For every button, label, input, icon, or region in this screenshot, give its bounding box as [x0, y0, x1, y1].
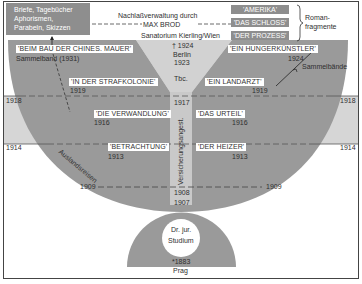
year-1914-left: 1914	[6, 144, 22, 152]
birth-city: Prag	[173, 267, 188, 275]
death-year: † 1924	[172, 42, 193, 50]
work-year: 1913	[232, 153, 248, 161]
kafka-life-work-diagram: Briefe, Tagebücher Aphorismen, Parabeln,…	[0, 0, 362, 284]
work-betrachtung: 'BETRACHTUNG'	[108, 143, 169, 151]
work-year: 1916	[94, 119, 110, 127]
study-label-2: Studium	[168, 237, 194, 245]
estate-name: MAX BROD	[143, 21, 180, 29]
year-1918-right: 1918	[340, 97, 356, 105]
fragments-label-1: Roman-	[305, 14, 330, 22]
box-line: Briefe, Tagebücher	[14, 5, 90, 14]
work-landarzt: 'EIN LANDARZT'	[205, 78, 264, 86]
fragments-label-2: fragmente	[305, 23, 337, 31]
work-strafkolonie: 'IN DER STRAFKOLONIE'	[69, 78, 158, 86]
insurance-label: Versicherungsangest.	[177, 118, 184, 185]
work-verwandlung: 'DIE VERWANDLUNG'	[94, 110, 171, 118]
year-1909-right: 1909	[266, 183, 282, 191]
year-1909-left: 1909	[80, 183, 96, 191]
work-das-urteil: 'DAS URTEIL'	[196, 110, 245, 118]
year-1914-right: 1914	[340, 144, 356, 152]
tbc-label: Tbc.	[174, 75, 188, 83]
collections-label: Sammelbände	[302, 63, 347, 71]
work-year: 1913	[108, 153, 124, 161]
work-year: Sammelband (1931)	[16, 55, 79, 63]
fragment-der-prozess: 'DER PROZESS'	[231, 31, 289, 40]
study-label-1: Dr. jur.	[171, 226, 191, 234]
work-year: 1919	[70, 87, 86, 95]
work-year: 1924	[288, 55, 304, 63]
work-der-heizer: 'DER HEIZER'	[196, 143, 246, 151]
year-1918-left: 1918	[6, 97, 22, 105]
year-1908: 1908	[174, 189, 190, 197]
box-line: Parabeln, Skizzen	[14, 23, 90, 32]
work-year: 1916	[232, 119, 248, 127]
fragment-amerika: 'AMERIKA'	[231, 5, 289, 14]
year-1907: 1907	[174, 199, 190, 207]
berlin-label: Berlin	[173, 51, 191, 59]
letters-diaries-box: Briefe, Tagebücher Aphorismen, Parabeln,…	[6, 3, 90, 35]
berlin-year: 1923	[174, 59, 190, 67]
work-chinesische-mauer: 'BEIM BAU DER CHINES. MAUER'	[16, 45, 133, 53]
work-hungerkuenstler: 'EIN HUNGERKÜNSTLER'	[228, 45, 318, 53]
box-line: Aphorismen,	[14, 14, 90, 23]
estate-label: Nachlaßverwaltung durch	[118, 12, 197, 20]
year-1917: 1917	[174, 99, 190, 107]
work-year: 1919	[252, 87, 268, 95]
fragments-brace	[297, 5, 303, 41]
sanatorium-label: Sanatorium Kierling/Wien	[141, 32, 220, 40]
fragment-das-schloss: 'DAS SCHLOSS'	[231, 18, 289, 27]
birth-year: *1883	[172, 258, 190, 266]
